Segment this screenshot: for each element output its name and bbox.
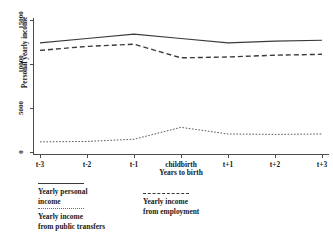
x-tick-label: t+2	[270, 160, 280, 169]
legend-label-line1: Yearly income	[38, 212, 105, 222]
series-line-public-transfers	[40, 127, 322, 142]
legend-item-public-transfers: Yearly income from public transfers	[38, 205, 105, 231]
legend-key-dotted	[38, 205, 84, 212]
legend-label-line2: from public transfers	[38, 222, 105, 232]
x-tick-label: t-1	[130, 160, 139, 169]
legend-label-line1: Yearly personal	[38, 187, 87, 197]
x-tick-label: t+1	[223, 160, 233, 169]
legend-key-dashed	[143, 190, 189, 197]
x-tick-label: t-3	[36, 160, 45, 169]
x-tick-label: t-2	[83, 160, 92, 169]
series-line-employment-income	[40, 44, 322, 58]
legend-item-employment-income: Yearly income from employment	[143, 190, 199, 216]
chart-figure: Personal yearly income 0 5000 10000 1500…	[0, 0, 333, 234]
legend-item-personal-income: Yearly personal income	[38, 180, 87, 206]
legend-label-line1: Yearly income	[143, 197, 199, 207]
series-line-personal-income	[40, 34, 322, 43]
x-tick-label: t+3	[317, 160, 327, 169]
legend-key-solid	[38, 180, 84, 187]
x-axis-title: Years to birth	[159, 168, 203, 177]
legend-label-line2: from employment	[143, 207, 199, 217]
